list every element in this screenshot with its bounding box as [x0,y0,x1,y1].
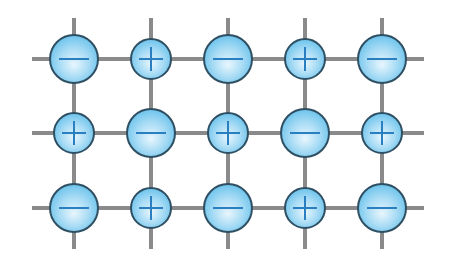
cation-ion [131,188,171,228]
anion-ion [281,109,329,157]
cation-ion [285,39,325,79]
anion-ion [50,184,98,232]
lattice-svg [0,0,452,272]
anion-ion [358,184,406,232]
cation-ion [54,113,94,153]
cation-ion [208,113,248,153]
anion-ion [50,35,98,83]
cation-ion [362,113,402,153]
cation-ion [285,188,325,228]
anion-ion [127,109,175,157]
anion-ion [204,184,252,232]
cation-ion [131,39,171,79]
lattice-diagram [0,0,452,272]
anion-ion [204,35,252,83]
anion-ion [358,35,406,83]
